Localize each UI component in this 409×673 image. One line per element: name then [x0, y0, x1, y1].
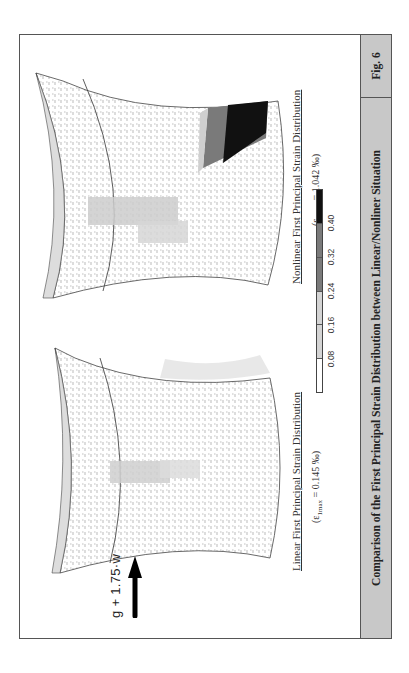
- legend-seg-2: [317, 291, 322, 325]
- linear-eps-max: (ε1max = 0.145 ‰): [310, 451, 324, 523]
- legend-seg-3: [317, 257, 322, 291]
- legend-tick: 0.40: [326, 215, 336, 232]
- figure-number: Fig. 6: [361, 35, 391, 97]
- legend-seg-5: [317, 190, 322, 223]
- legend-seg-0: [317, 358, 322, 392]
- legend-tick: 0.32: [326, 249, 336, 266]
- legend-ticks: 0.08 0.16 0.24 0.32 0.40: [326, 189, 338, 393]
- legend-tick: 0.08: [326, 351, 336, 368]
- strain-legend-bar: [316, 189, 323, 393]
- figure-caption: Comparison of the First Principal Strain…: [361, 97, 391, 638]
- linear-strain-shell-plot: [40, 338, 290, 583]
- nonlinear-strain-shell-plot: [28, 68, 293, 313]
- caption-strip: Comparison of the First Principal Strain…: [360, 35, 391, 638]
- legend-seg-1: [317, 324, 322, 358]
- legend-tick: 0.16: [326, 317, 336, 334]
- legend-seg-4: [317, 223, 322, 257]
- linear-figure-title: Linear First Principal Strain Distributi…: [290, 392, 302, 571]
- nonlinear-figure-title: Nonlinear First Principal Strain Distrib…: [290, 90, 302, 284]
- legend-tick: 0.24: [326, 283, 336, 300]
- figure-page: g + 1.75·w: [19, 34, 392, 639]
